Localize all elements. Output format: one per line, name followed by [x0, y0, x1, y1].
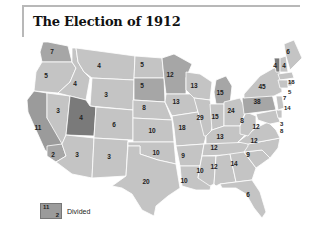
label-ma: 18 [288, 79, 295, 85]
label-ne: 8 [142, 104, 146, 111]
label-ga: 14 [230, 160, 238, 167]
label-co: 6 [112, 121, 116, 128]
label-ut: 4 [79, 114, 83, 121]
label-ky: 13 [216, 133, 224, 140]
label-wa: 7 [50, 48, 54, 55]
label-ca: 11 [35, 124, 42, 131]
label-fl: 6 [246, 191, 250, 198]
label-md: 8 [280, 128, 284, 134]
state-sd[interactable] [134, 78, 165, 102]
legend-sample-top: 11 [43, 204, 49, 210]
label-mi: 15 [216, 89, 224, 96]
label-vt: 4 [273, 62, 277, 69]
legend: 11 2 Divided [40, 203, 90, 219]
state-ct[interactable] [278, 80, 288, 88]
label-nm: 3 [107, 153, 111, 160]
label-me: 6 [286, 48, 290, 55]
label-oh: 24 [227, 107, 235, 114]
label-ks: 10 [148, 127, 156, 134]
label-ri: 5 [288, 89, 292, 95]
label-wv: 8 [240, 117, 244, 124]
label-ok: 10 [152, 149, 160, 156]
label-nv: 3 [56, 107, 60, 114]
label-de: 3 [280, 121, 284, 127]
legend-sample-bottom: 2 [56, 212, 59, 218]
us-election-map: 7 5 11 2 4 3 4 3 4 6 3 3 5 5 8 10 10 20 … [0, 0, 317, 230]
label-ny: 45 [258, 83, 266, 90]
label-or: 5 [44, 72, 48, 79]
state-fl[interactable] [220, 180, 266, 218]
label-wy: 3 [104, 91, 108, 98]
label-pa: 38 [253, 98, 261, 105]
label-la: 10 [180, 177, 188, 184]
label-ar: 9 [181, 152, 185, 159]
label-tn: 12 [210, 144, 218, 151]
label-sd: 5 [140, 82, 144, 89]
label-sc: 9 [246, 151, 250, 158]
label-mo: 18 [178, 124, 186, 131]
label-ia: 13 [172, 98, 180, 105]
label-az: 3 [75, 151, 79, 158]
label-nh: 4 [282, 62, 286, 69]
label-nj: 14 [284, 105, 291, 111]
label-nc: 12 [250, 137, 258, 144]
legend-label: Divided [67, 208, 90, 215]
label-nd: 5 [140, 61, 144, 68]
label-va: 12 [252, 123, 260, 130]
state-wy[interactable] [90, 78, 134, 110]
legend-divided-swatch: 11 2 [40, 203, 62, 219]
label-mt: 4 [97, 62, 101, 69]
label-il: 29 [196, 114, 204, 121]
label-mn: 12 [166, 71, 174, 78]
label-id: 4 [73, 80, 77, 87]
label-ms: 10 [196, 167, 204, 174]
label-ct: 7 [283, 95, 287, 101]
state-nd[interactable] [134, 56, 164, 78]
label-tx: 20 [142, 178, 150, 185]
label-ca-south: 2 [51, 151, 55, 158]
label-al: 12 [210, 163, 218, 170]
state-wa[interactable] [40, 42, 72, 62]
label-wi: 13 [190, 82, 198, 89]
state-ar[interactable] [176, 144, 204, 166]
label-in: 15 [211, 113, 219, 120]
